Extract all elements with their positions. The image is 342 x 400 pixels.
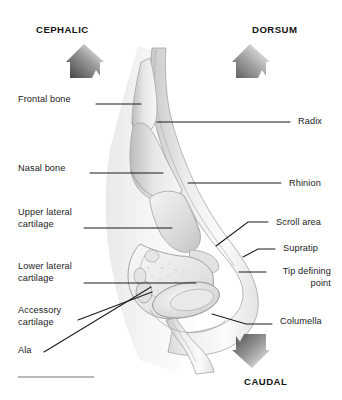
label-frontal-bone: Frontal bone [18,94,71,106]
nose-anatomy-illustration [0,0,342,400]
orientation-label-cephalic: CEPHALIC [36,24,89,35]
footer-divider-rule [18,376,94,378]
label-supratip: Supratip [283,243,318,255]
label-nasal-bone: Nasal bone [18,163,65,175]
orientation-label-dorsum: DORSUM [252,24,297,35]
arrow-up-banner-dorsum [232,44,270,78]
label-columella: Columella [280,316,322,328]
label-lower-lateral-cartilage: Lower lateral cartilage [18,261,72,284]
label-scroll-area: Scroll area [276,217,321,229]
label-accessory-cartilage: Accessory cartilage [18,305,61,328]
label-rhinion: Rhinion [289,178,321,190]
orientation-label-caudal: CAUDAL [244,376,287,387]
nasal-anatomy-figure: CEPHALIC DORSUM CAUDAL Frontal bone Nasa… [0,0,342,400]
leader-supratip [243,249,275,257]
label-upper-lateral-cartilage: Upper lateral cartilage [18,207,72,230]
label-tip-defining-point: Tip defining point [263,266,331,289]
arrow-down-banner-caudal [232,334,270,368]
arrow-up-banner-cephalic [66,44,104,78]
label-radix: Radix [298,116,322,128]
label-ala: Ala [18,345,32,357]
